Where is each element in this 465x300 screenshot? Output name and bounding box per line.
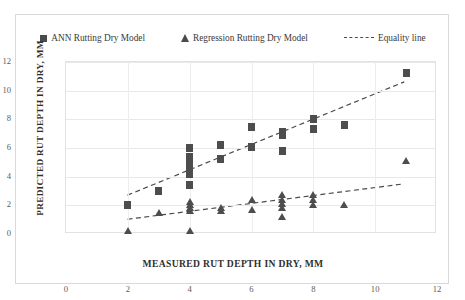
data-point-triangle xyxy=(124,227,132,234)
gridline-horizontal xyxy=(66,91,435,92)
data-point-triangle xyxy=(248,196,256,203)
y-axis-tick-label: 10 xyxy=(0,85,11,95)
legend-label-ann: ANN Rutting Dry Model xyxy=(51,33,145,43)
gridline-horizontal xyxy=(66,62,435,63)
y-axis-tick-label: 12 xyxy=(0,56,11,66)
data-point-triangle xyxy=(402,157,410,164)
legend-item-regression: Regression Rutting Dry Model xyxy=(181,33,308,43)
legend-label-equality: Equality line xyxy=(378,33,426,43)
data-point-square xyxy=(310,125,317,133)
data-point-triangle xyxy=(155,209,163,216)
data-point-square xyxy=(403,69,410,77)
y-axis-tick-label: 4 xyxy=(0,171,11,181)
data-point-triangle xyxy=(278,213,286,220)
data-point-triangle xyxy=(278,191,286,198)
y-axis-tick-label: 0 xyxy=(0,228,11,238)
x-axis-title: MEASURED RUT DEPTH IN DRY, MM xyxy=(16,258,450,269)
data-point-square xyxy=(186,181,193,189)
x-axis-tick-label: 12 xyxy=(424,284,450,294)
data-point-square xyxy=(186,153,193,161)
data-point-triangle xyxy=(186,198,194,205)
x-axis-tick-label: 4 xyxy=(177,284,203,294)
gridline-horizontal xyxy=(66,177,435,178)
x-axis-tick-label: 2 xyxy=(115,284,141,294)
y-axis-tick-label: 8 xyxy=(0,113,11,123)
data-point-square xyxy=(279,128,286,136)
legend-item-ann: ANN Rutting Dry Model xyxy=(40,33,145,43)
data-point-square xyxy=(248,143,255,151)
data-point-square xyxy=(155,187,162,195)
x-axis-tick-label: 8 xyxy=(300,284,326,294)
data-point-square xyxy=(217,155,224,163)
legend-label-regression: Regression Rutting Dry Model xyxy=(193,33,308,43)
chart-legend: ANN Rutting Dry Model Regression Rutting… xyxy=(16,29,450,47)
y-axis-tick-label: 2 xyxy=(0,199,11,209)
data-point-triangle xyxy=(248,206,256,213)
plot-area: 024681012024681012 xyxy=(65,61,436,233)
y-axis-title: PREDICTED RUT DEPTH IN DRY, MM xyxy=(35,38,45,218)
gridline-horizontal xyxy=(66,119,435,120)
data-point-square xyxy=(186,144,193,152)
trendline-equality-line xyxy=(128,82,405,195)
data-point-triangle xyxy=(217,204,225,211)
x-axis-tick-label: 10 xyxy=(362,284,388,294)
data-point-triangle xyxy=(340,201,348,208)
x-axis-tick-label: 0 xyxy=(53,284,79,294)
chart-figure: ANN Rutting Dry Model Regression Rutting… xyxy=(15,14,449,284)
data-point-square xyxy=(341,121,348,129)
x-axis-tick-label: 6 xyxy=(239,284,265,294)
y-axis-tick-label: 6 xyxy=(0,142,11,152)
data-point-square xyxy=(310,115,317,123)
gridline-vertical xyxy=(375,62,376,232)
data-point-square xyxy=(124,201,131,209)
triangle-marker-icon xyxy=(181,34,189,42)
data-point-triangle xyxy=(309,191,317,198)
data-point-square xyxy=(248,123,255,131)
data-point-triangle xyxy=(186,227,194,234)
dashed-line-marker-icon xyxy=(344,37,374,38)
data-point-square xyxy=(279,147,286,155)
legend-item-equality: Equality line xyxy=(344,33,426,43)
trendline-regression-trend xyxy=(128,184,405,219)
data-point-square xyxy=(217,141,224,149)
